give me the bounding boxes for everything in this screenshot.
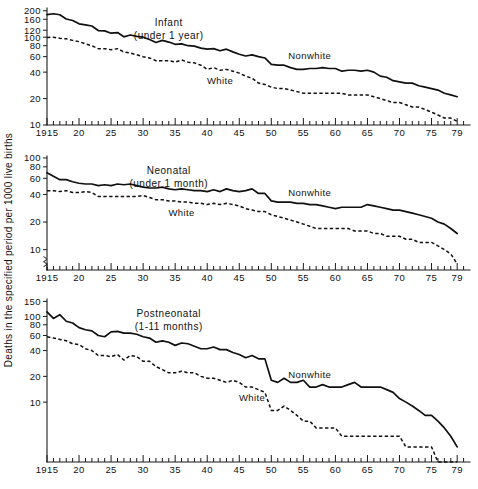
- panel-title: Postneonatal: [137, 308, 201, 319]
- x-axis-tick-label: 75: [426, 127, 437, 138]
- x-axis-tick-label: 70: [394, 464, 405, 475]
- x-axis-tick-label: 75: [426, 272, 437, 283]
- x-axis-tick-label: 45: [234, 272, 245, 283]
- x-axis-tick-label: 30: [137, 272, 148, 283]
- x-axis-tick-label: 50: [266, 127, 277, 138]
- x-axis-tick-label: 79: [451, 272, 462, 283]
- y-axis-tick-label: 10: [30, 397, 41, 408]
- x-axis-tick-label: 20: [73, 127, 84, 138]
- x-axis-tick-label: 40: [202, 464, 213, 475]
- infant-mortality-figure: Deaths in the specified period per 1000 …: [0, 0, 478, 489]
- series-label-white: White: [168, 207, 194, 218]
- panel-subtitle: (1-11 months): [135, 321, 203, 332]
- panel-subtitle: (under 1 month): [129, 178, 208, 189]
- x-axis-tick-label: 79: [451, 127, 462, 138]
- figure-page: Deaths in the specified period per 1000 …: [0, 0, 478, 489]
- x-axis-tick-label: 60: [330, 464, 341, 475]
- y-axis-tick-label: 150: [24, 296, 41, 307]
- x-axis-tick-label: 55: [298, 272, 309, 283]
- series-line-nonwhite: [47, 312, 457, 447]
- series-label-white: White: [207, 75, 233, 86]
- x-axis-tick-label: 75: [426, 464, 437, 475]
- y-axis-tick-label: 10: [30, 244, 41, 255]
- panel-title: Neonatal: [147, 165, 191, 176]
- series-line-nonwhite: [47, 173, 457, 234]
- y-axis-tick-label: 80: [30, 319, 41, 330]
- x-axis-tick-label: 1915: [36, 464, 59, 475]
- x-axis-tick-label: 60: [330, 127, 341, 138]
- x-axis-tick-label: 55: [298, 464, 309, 475]
- series-line-white: [47, 37, 457, 121]
- x-axis-tick-label: 35: [169, 272, 180, 283]
- series-line-nonwhite: [47, 14, 457, 97]
- y-axis-tick-label: 20: [30, 371, 41, 382]
- x-axis-tick-label: 50: [266, 272, 277, 283]
- y-axis-tick-label: 60: [30, 330, 41, 341]
- x-axis-tick-label: 1915: [36, 127, 59, 138]
- x-axis-tick-label: 25: [105, 127, 116, 138]
- y-axis-tick-label: 80: [30, 40, 41, 51]
- x-axis-tick-label: 70: [394, 272, 405, 283]
- series-line-white: [47, 191, 457, 264]
- x-axis-tick-label: 65: [362, 127, 373, 138]
- x-axis-tick-label: 35: [169, 464, 180, 475]
- x-axis-tick-label: 20: [73, 464, 84, 475]
- y-axis-title-text: Deaths in the specified period per 1000 …: [3, 133, 14, 367]
- y-axis-tick-label: 60: [30, 173, 41, 184]
- x-axis-tick-label: 45: [234, 464, 245, 475]
- x-axis-tick-label: 79: [451, 464, 462, 475]
- series-label-nonwhite: Nonwhite: [288, 369, 331, 380]
- x-axis-tick-label: 35: [169, 127, 180, 138]
- x-axis-tick-label: 40: [202, 272, 213, 283]
- x-axis-tick-label: 30: [137, 127, 148, 138]
- y-axis-tick-label: 40: [30, 345, 41, 356]
- x-axis-tick-label: 30: [137, 464, 148, 475]
- series-label-nonwhite: Nonwhite: [288, 187, 331, 198]
- x-axis-tick-label: 20: [73, 272, 84, 283]
- y-axis-tick-label: 20: [30, 93, 41, 104]
- y-axis-tick-label: 20: [30, 216, 41, 227]
- y-axis-tick-label: 80: [30, 161, 41, 172]
- y-axis-tick-label: 160: [24, 14, 41, 25]
- x-axis-tick-label: 65: [362, 272, 373, 283]
- x-axis-tick-label: 25: [105, 464, 116, 475]
- x-axis-tick-label: 55: [298, 127, 309, 138]
- x-axis-tick-label: 45: [234, 127, 245, 138]
- x-axis-tick-label: 65: [362, 464, 373, 475]
- x-axis-tick-label: 50: [266, 464, 277, 475]
- panel-title: Infant: [155, 17, 183, 28]
- x-axis-tick-label: 40: [202, 127, 213, 138]
- series-label-white: White: [239, 392, 265, 403]
- panel-neonatal: 1008060402010191520253035404550556065707…: [24, 152, 470, 283]
- x-axis-tick-label: 70: [394, 127, 405, 138]
- panel-infant: 2001601201008060402010191520253035404550…: [24, 5, 470, 138]
- y-axis-tick-label: 60: [30, 51, 41, 62]
- x-axis-tick-label: 60: [330, 272, 341, 283]
- panel-postneonatal: 1501008060402010191520253035404550556065…: [24, 296, 470, 475]
- y-axis-tick-label: 40: [30, 189, 41, 200]
- y-axis-break-icon: [44, 257, 47, 267]
- x-axis-tick-label: 1915: [36, 272, 59, 283]
- y-axis-tick-label: 40: [30, 67, 41, 78]
- y-axis-title: Deaths in the specified period per 1000 …: [3, 133, 14, 367]
- series-label-nonwhite: Nonwhite: [288, 50, 331, 61]
- panel-subtitle: (under 1 year): [134, 30, 204, 41]
- x-axis-tick-label: 25: [105, 272, 116, 283]
